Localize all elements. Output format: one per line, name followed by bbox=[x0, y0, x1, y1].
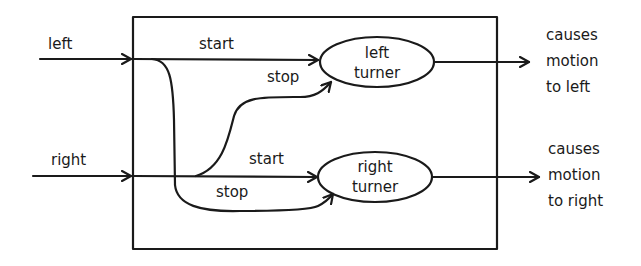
output-right-line1: causes bbox=[548, 140, 600, 158]
output-left-line2: motion bbox=[546, 52, 599, 70]
output-right-line3: to right bbox=[548, 192, 603, 210]
input-right: right bbox=[33, 151, 131, 176]
edge-left-start-label: start bbox=[199, 35, 234, 53]
edge-right-start: start bbox=[133, 150, 317, 177]
node-left-turner: left turner bbox=[320, 37, 434, 87]
system-box bbox=[133, 17, 497, 249]
node-right-turner: right turner bbox=[318, 152, 432, 202]
output-right: causes motion to right bbox=[432, 140, 603, 210]
input-left-label: left bbox=[48, 35, 72, 53]
output-left-line3: to left bbox=[546, 78, 590, 96]
edge-right-stop-label: stop bbox=[267, 68, 299, 86]
node-right-turner-line2: turner bbox=[352, 178, 399, 196]
input-right-label: right bbox=[51, 151, 86, 169]
input-left: left bbox=[40, 35, 131, 59]
node-right-turner-line1: right bbox=[357, 158, 392, 176]
edge-left-stop-to-right-turner: stop bbox=[152, 59, 333, 211]
output-right-line2: motion bbox=[548, 166, 601, 184]
output-left: causes motion to left bbox=[434, 26, 599, 96]
edge-right-start-label: start bbox=[249, 150, 284, 168]
node-left-turner-line2: turner bbox=[354, 64, 401, 82]
edge-left-start: start bbox=[133, 35, 318, 60]
output-left-line1: causes bbox=[546, 26, 598, 44]
edge-left-stop-label: stop bbox=[216, 183, 248, 201]
turner-diagram: left right start stop start stop left tu… bbox=[0, 0, 641, 266]
node-left-turner-line1: left bbox=[365, 44, 389, 62]
